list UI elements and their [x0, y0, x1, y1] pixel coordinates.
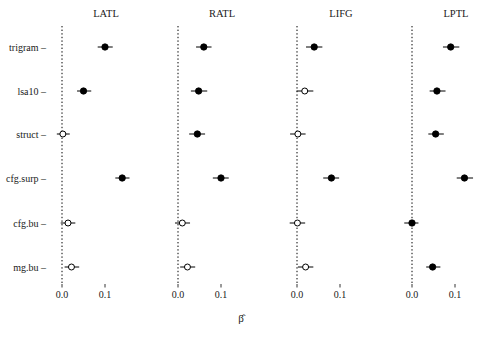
- xtick-label: 0.0: [172, 289, 185, 300]
- xtick-label: 0.0: [56, 289, 69, 300]
- estimate-point-lptl-trigram: [448, 44, 454, 50]
- coefficient-plot-svg: LATL0.00.1RATL0.00.1LIFG0.00.1LPTL0.00.1…: [0, 0, 483, 339]
- row-label-struct: struct –: [16, 129, 47, 140]
- xtick-label: 0.1: [449, 289, 462, 300]
- forest-plot-figure: LATL0.00.1RATL0.00.1LIFG0.00.1LPTL0.00.1…: [0, 0, 483, 339]
- estimate-point-latl-struct: [60, 131, 66, 137]
- estimate-point-ratl-cfg.surp: [218, 175, 224, 181]
- estimate-point-lptl-mg.bu: [429, 264, 435, 270]
- xtick-label: 0.1: [215, 289, 228, 300]
- xtick-label: 0.0: [406, 289, 419, 300]
- estimate-point-lifg-trigram: [311, 44, 317, 50]
- panel-ratl: RATL0.00.1: [172, 8, 235, 300]
- xtick-label: 0.1: [99, 289, 112, 300]
- estimate-point-lifg-cfg.bu: [294, 220, 300, 226]
- panel-title-lptl: LPTL: [443, 8, 468, 19]
- estimate-point-latl-lsa10: [80, 88, 86, 94]
- estimate-point-ratl-mg.bu: [184, 264, 190, 270]
- xtick-label: 0.1: [334, 289, 347, 300]
- estimate-point-lptl-lsa10: [434, 88, 440, 94]
- estimate-point-lifg-struct: [295, 131, 301, 137]
- estimate-point-latl-mg.bu: [68, 264, 74, 270]
- estimate-point-ratl-trigram: [201, 44, 207, 50]
- panel-title-ratl: RATL: [209, 8, 235, 19]
- panel-lptl: LPTL0.00.1: [404, 8, 473, 300]
- row-label-cfg.bu: cfg.bu –: [13, 218, 47, 229]
- panel-lifg: LIFG0.00.1: [290, 8, 353, 300]
- estimate-point-lptl-cfg.surp: [461, 175, 467, 181]
- panel-title-latl: LATL: [93, 8, 119, 19]
- panel-latl: LATL0.00.1: [56, 8, 130, 300]
- estimate-point-lifg-lsa10: [302, 88, 308, 94]
- estimate-point-latl-cfg.bu: [65, 220, 71, 226]
- plot-layers: LATL0.00.1RATL0.00.1LIFG0.00.1LPTL0.00.1…: [6, 8, 473, 324]
- panel-title-lifg: LIFG: [329, 8, 353, 19]
- estimate-point-ratl-cfg.bu: [179, 220, 185, 226]
- x-axis-title: β̂: [238, 312, 246, 324]
- estimate-point-latl-cfg.surp: [119, 175, 125, 181]
- estimate-point-lptl-cfg.bu: [409, 220, 415, 226]
- row-label-cfg.surp: cfg.surp –: [6, 173, 47, 184]
- row-label-mg.bu: mg.bu –: [13, 262, 47, 273]
- estimate-point-lifg-cfg.surp: [328, 175, 334, 181]
- xtick-label: 0.0: [291, 289, 304, 300]
- estimate-point-lptl-struct: [432, 131, 438, 137]
- estimate-point-latl-trigram: [102, 44, 108, 50]
- estimate-point-ratl-struct: [194, 131, 200, 137]
- row-label-trigram: trigram –: [9, 42, 47, 53]
- estimate-point-ratl-lsa10: [195, 88, 201, 94]
- estimate-point-lifg-mg.bu: [303, 264, 309, 270]
- row-label-lsa10: lsa10 –: [17, 86, 47, 97]
